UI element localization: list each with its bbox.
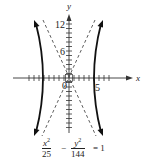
x-fraction-denominator: 25 <box>42 149 51 159</box>
arrow-right-top-icon <box>98 20 104 28</box>
arrow-left-top-icon <box>34 20 40 28</box>
y-exponent: 2 <box>78 137 81 143</box>
y-tick-label-6: 6 <box>60 47 65 57</box>
y-fraction: y2 144 <box>71 137 85 159</box>
x-axis-label: x <box>136 74 140 83</box>
y-axis-arrow-icon <box>67 14 72 21</box>
arrow-right-bottom-icon <box>98 129 104 137</box>
y-axis-label: y <box>67 2 71 11</box>
origin-label: 0 <box>62 81 67 91</box>
x-tick-label-5: 5 <box>95 83 100 93</box>
x-exponent: 2 <box>47 137 50 143</box>
hyperbola-equation: x2 25 − y2 144 = 1 <box>42 137 112 159</box>
x-axis-arrow-icon <box>126 76 133 81</box>
minus-sign: − <box>61 143 66 153</box>
x-fraction: x2 25 <box>42 137 51 159</box>
equation-rhs: = 1 <box>93 143 105 153</box>
hyperbola-graph <box>0 0 146 160</box>
y-tick-label-12: 12 <box>55 20 65 30</box>
y-fraction-denominator: 144 <box>71 149 85 159</box>
x-fraction-numerator: x2 <box>42 137 51 149</box>
arrow-left-bottom-icon <box>34 129 40 137</box>
y-fraction-numerator: y2 <box>71 137 85 149</box>
